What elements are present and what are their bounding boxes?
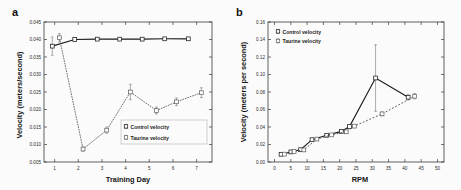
x-tick-label: 0 xyxy=(273,166,276,171)
x-tick-label: 1 xyxy=(53,166,56,171)
x-tick-label: 45 xyxy=(419,166,425,171)
panel-b-label: b xyxy=(236,6,243,18)
data-point-marker xyxy=(50,44,54,48)
panel-b-x-axis-title: RPM xyxy=(352,175,368,184)
panel-a-label: a xyxy=(12,6,19,18)
data-point-marker xyxy=(348,125,352,129)
x-tick-label: 3 xyxy=(101,166,104,171)
legend-label: Taurine velocity xyxy=(131,135,170,141)
panel-a: a 12345670.0050.0100.0150.0200.0250.0300… xyxy=(0,0,230,190)
data-point-marker xyxy=(95,37,99,41)
data-point-marker xyxy=(199,91,203,95)
series-control xyxy=(50,37,190,55)
panel-b: b 051015202530354045500.000.020.040.060.… xyxy=(230,0,461,190)
y-tick-label: 0.035 xyxy=(30,55,42,60)
y-tick-label: 0.14 xyxy=(256,37,265,42)
x-tick-label: 25 xyxy=(353,166,359,171)
y-tick-label: 0.12 xyxy=(256,55,265,60)
panel-a-legend: Control velocityTaurine velocity xyxy=(121,120,207,144)
data-point-marker xyxy=(282,152,286,156)
panel-a-series xyxy=(50,34,203,152)
panel-b-y-axis-title: Velocity (meters per second) xyxy=(239,41,248,142)
data-point-marker xyxy=(292,150,296,154)
y-tick-label: 0.02 xyxy=(256,142,265,147)
y-tick-label: 0.025 xyxy=(30,90,42,95)
panel-b-plot: b 051015202530354045500.000.020.040.060.… xyxy=(230,0,461,190)
y-tick-label: 0.10 xyxy=(256,72,265,77)
data-point-marker xyxy=(118,37,122,41)
data-point-marker xyxy=(315,137,319,141)
y-tick-label: 0.005 xyxy=(30,160,42,165)
data-point-marker xyxy=(330,133,334,137)
y-tick-label: 0.045 xyxy=(30,20,42,25)
x-tick-label: 10 xyxy=(305,166,311,171)
y-tick-label: 0.020 xyxy=(30,107,42,112)
series-taurine xyxy=(57,34,203,152)
data-point-marker xyxy=(73,38,77,42)
x-tick-label: 6 xyxy=(172,166,175,171)
data-point-marker xyxy=(140,37,144,41)
data-point-marker xyxy=(163,37,167,41)
legend-label: Control velocity xyxy=(283,29,322,35)
data-point-marker xyxy=(374,76,378,80)
data-point-marker xyxy=(154,109,158,113)
panel-a-y-axis-title: Velocity (meters/second) xyxy=(15,51,24,139)
data-point-marker xyxy=(175,100,179,104)
data-point-marker xyxy=(413,94,417,98)
legend-label: Taurine velocity xyxy=(283,38,322,44)
y-tick-label: 0.040 xyxy=(30,37,42,42)
data-point-marker xyxy=(344,130,348,134)
data-point-marker xyxy=(302,148,306,152)
data-point-marker xyxy=(57,36,61,40)
series-control xyxy=(279,45,410,156)
y-tick-label: 0.00 xyxy=(256,160,265,165)
data-point-marker xyxy=(105,128,109,132)
y-tick-label: 0.08 xyxy=(256,90,265,95)
x-tick-label: 4 xyxy=(124,166,127,171)
x-tick-label: 20 xyxy=(337,166,343,171)
panel-a-axes: 12345670.0050.0100.0150.0200.0250.0300.0… xyxy=(30,20,213,171)
data-point-marker xyxy=(406,95,410,99)
y-tick-label: 0.06 xyxy=(256,107,265,112)
data-point-marker xyxy=(310,138,314,142)
y-tick-label: 0.010 xyxy=(30,142,42,147)
y-tick-label: 0.16 xyxy=(256,20,265,25)
panel-a-x-axis-title: Training Day xyxy=(106,175,151,184)
panel-a-plot: a 12345670.0050.0100.0150.0200.0250.0300… xyxy=(0,0,230,190)
x-tick-label: 7 xyxy=(195,166,198,171)
data-point-marker xyxy=(81,147,85,151)
y-tick-label: 0.04 xyxy=(256,125,265,130)
data-point-marker xyxy=(186,37,190,41)
x-tick-label: 40 xyxy=(402,166,408,171)
x-tick-label: 35 xyxy=(386,166,392,171)
panel-b-series xyxy=(279,45,416,156)
x-tick-label: 5 xyxy=(290,166,293,171)
y-tick-label: 0.030 xyxy=(30,72,42,77)
panel-b-legend: Control velocityTaurine velocity xyxy=(276,29,321,45)
y-tick-label: 0.015 xyxy=(30,125,42,130)
x-tick-label: 5 xyxy=(148,166,151,171)
legend-label: Control velocity xyxy=(131,124,170,130)
data-point-marker xyxy=(380,112,384,116)
x-tick-label: 15 xyxy=(321,166,327,171)
x-tick-label: 50 xyxy=(435,166,441,171)
data-point-marker xyxy=(128,90,132,94)
x-tick-label: 30 xyxy=(370,166,376,171)
figure-container: a 12345670.0050.0100.0150.0200.0250.0300… xyxy=(0,0,461,190)
data-point-marker xyxy=(352,124,356,128)
x-tick-label: 2 xyxy=(77,166,80,171)
